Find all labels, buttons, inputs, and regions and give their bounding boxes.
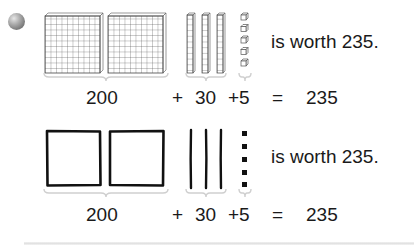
ones-value: +5 (228, 87, 250, 109)
tens-brace-icon (185, 73, 227, 81)
plus-sign: + (172, 204, 183, 226)
equals-sign: = (272, 204, 283, 226)
ten-rod-icon (217, 13, 226, 75)
equals-sign: = (272, 87, 283, 109)
hundreds-brace-icon (43, 189, 169, 197)
unit-cubes-icon (241, 13, 251, 75)
ones-value: +5 (228, 204, 250, 226)
ones-brace-icon (238, 73, 252, 81)
row1-caption: is worth 235. (271, 31, 379, 53)
hundred-square-icon (45, 129, 103, 188)
ten-line-icon (188, 128, 194, 190)
hundreds-brace-icon (43, 73, 169, 81)
plus-sign: + (172, 87, 183, 109)
tens-value: 30 (195, 87, 216, 109)
total-value: 235 (306, 87, 338, 109)
row2-caption: is worth 235. (271, 146, 379, 168)
one-dots-icon (241, 130, 249, 188)
ten-line-icon (218, 128, 224, 190)
ten-line-icon (203, 128, 209, 190)
hundreds-value: 200 (86, 204, 118, 226)
ones-brace-icon (238, 189, 252, 197)
ten-rod-icon (187, 13, 196, 75)
hundred-square-icon (108, 129, 166, 188)
tens-brace-icon (185, 189, 227, 197)
tens-value: 30 (195, 204, 216, 226)
hundreds-value: 200 (86, 87, 118, 109)
hundreds-flat-icon (45, 13, 105, 75)
total-value: 235 (306, 204, 338, 226)
hundreds-flat-icon (108, 13, 168, 75)
ten-rod-icon (202, 13, 211, 75)
sphere-bullet-icon (8, 13, 25, 30)
section-divider (24, 242, 414, 245)
